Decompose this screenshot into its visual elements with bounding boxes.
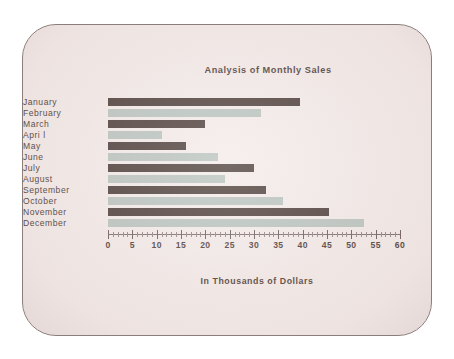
bar [108,208,329,216]
category-axis-labels: JanuaryFebruaryMarchApri lMayJuneJulyAug… [51,97,107,229]
chart-title: Analysis of Monthly Sales [23,65,433,75]
axis-major-tick [108,230,109,239]
axis-minor-tick [361,232,362,237]
axis-minor-tick [293,232,294,237]
axis-minor-tick [273,232,274,237]
axis-minor-tick [118,232,119,237]
category-label: July [23,163,105,174]
axis-minor-tick [283,232,284,237]
axis-major-tick [181,230,182,239]
category-label: November [23,207,105,218]
axis-minor-tick [176,232,177,237]
category-label: August [23,174,105,185]
axis-minor-tick [137,232,138,237]
category-label: June [23,152,105,163]
axis-minor-tick [171,232,172,237]
axis-minor-tick [166,232,167,237]
axis-major-tick [400,230,401,239]
axis-minor-tick [113,232,114,237]
axis-minor-tick [312,232,313,237]
axis-major-tick [327,230,328,239]
category-label: October [23,196,105,207]
axis-minor-tick [147,232,148,237]
axis-minor-tick [356,232,357,237]
axis-minor-tick [127,232,128,237]
bar [108,175,225,183]
bar [108,164,254,172]
axis-minor-tick [152,232,153,237]
axis-minor-tick [123,232,124,237]
axis-minor-tick [298,232,299,237]
category-label: January [23,97,105,108]
axis-minor-tick [210,232,211,237]
axis-minor-tick [239,232,240,237]
axis-tick-label: 15 [176,240,186,250]
axis-minor-tick [191,232,192,237]
axis-minor-tick [288,232,289,237]
category-label: September [23,185,105,196]
axis-major-tick [303,230,304,239]
axis-minor-tick [346,232,347,237]
axis-tick-label: 0 [105,240,110,250]
bar [108,120,205,128]
axis-minor-tick [308,232,309,237]
axis-minor-tick [332,232,333,237]
axis-tick-label: 40 [297,240,307,250]
axis-minor-tick [269,232,270,237]
axis-minor-tick [244,232,245,237]
category-label: March [23,119,105,130]
axis-minor-tick [381,232,382,237]
axis-minor-tick [196,232,197,237]
axis-minor-tick [390,232,391,237]
bar [108,142,186,150]
axis-minor-tick [235,232,236,237]
axis-major-tick [351,230,352,239]
axis-major-tick [376,230,377,239]
axis-tick-label: 60 [395,240,405,250]
axis-minor-tick [366,232,367,237]
axis-minor-tick [371,232,372,237]
axis-tick-label: 10 [151,240,161,250]
axis-major-tick [157,230,158,239]
axis-major-tick [278,230,279,239]
axis-tick-label: 35 [273,240,283,250]
bar [108,219,364,227]
chart-card-frame: Analysis of Monthly Sales JanuaryFebruar… [22,24,432,336]
value-axis: 051015202530354045505560 [108,230,400,264]
axis-minor-tick [342,232,343,237]
x-axis-title: In Thousands of Dollars [23,276,433,286]
axis-minor-tick [322,232,323,237]
axis-minor-tick [395,232,396,237]
axis-minor-tick [317,232,318,237]
bar [108,131,162,139]
chart-area: Analysis of Monthly Sales JanuaryFebruar… [23,25,433,337]
axis-minor-tick [225,232,226,237]
axis-major-tick [205,230,206,239]
axis-major-tick [132,230,133,239]
axis-minor-tick [385,232,386,237]
axis-tick-label: 45 [322,240,332,250]
axis-minor-tick [162,232,163,237]
axis-minor-tick [337,232,338,237]
axis-major-tick [230,230,231,239]
axis-minor-tick [264,232,265,237]
bar [108,153,218,161]
category-label: May [23,141,105,152]
bar [108,197,283,205]
axis-minor-tick [200,232,201,237]
axis-tick-label: 55 [370,240,380,250]
axis-tick-label: 50 [346,240,356,250]
category-label: February [23,108,105,119]
axis-tick-label: 5 [130,240,135,250]
bar [108,186,266,194]
axis-minor-tick [259,232,260,237]
axis-tick-label: 25 [224,240,234,250]
category-label: December [23,218,105,229]
axis-minor-tick [220,232,221,237]
screenshot-root: Analysis of Monthly Sales JanuaryFebruar… [0,0,454,359]
axis-minor-tick [186,232,187,237]
plot-region: JanuaryFebruaryMarchApri lMayJuneJulyAug… [51,97,411,247]
axis-major-tick [254,230,255,239]
axis-tick-label: 30 [249,240,259,250]
axis-tick-label: 20 [200,240,210,250]
